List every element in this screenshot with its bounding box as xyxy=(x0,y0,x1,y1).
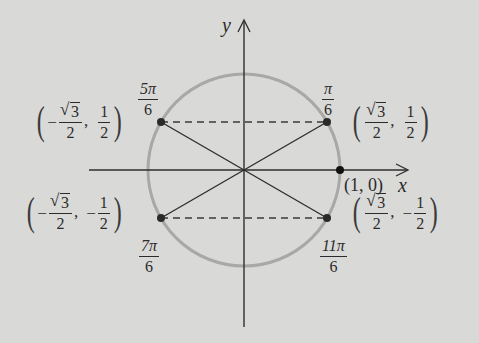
x-axis-label: x xyxy=(398,174,407,197)
angle-label-pi-6: π6 xyxy=(321,81,335,118)
coord-label-pi-6: ( 32 , 12 ) xyxy=(350,104,431,141)
num: 1 xyxy=(414,195,426,214)
close-paren: ) xyxy=(430,192,438,232)
num: 1 xyxy=(98,195,110,214)
num: 1 xyxy=(405,104,417,123)
den: 2 xyxy=(373,123,381,141)
sign: − xyxy=(47,114,57,131)
num: 1 xyxy=(98,104,110,123)
open-paren: ( xyxy=(353,101,361,141)
close-paren: ) xyxy=(113,192,121,232)
sign: − xyxy=(403,205,413,222)
coord-label-11pi-6: ( 32 , − 12 ) xyxy=(350,195,441,232)
angle-label-5pi-6: 5π6 xyxy=(137,81,159,118)
point-pi-6 xyxy=(323,118,331,126)
close-paren: ) xyxy=(114,101,122,141)
sign: − xyxy=(37,205,47,222)
angle-den: 6 xyxy=(145,257,153,275)
coord-label-7pi-6: ( − 32 , − 12 ) xyxy=(24,195,124,232)
open-paren: ( xyxy=(27,192,35,232)
point-1-0-label: (1, 0) xyxy=(344,176,383,194)
angle-den: 6 xyxy=(324,100,332,118)
point-11pi-6 xyxy=(323,214,331,222)
point-5pi-6 xyxy=(157,118,165,126)
open-paren: ( xyxy=(37,101,45,141)
y-axis-label: y xyxy=(222,14,231,37)
unit-circle-graphic xyxy=(0,0,479,343)
angle-num: 7π xyxy=(139,238,159,257)
angle-label-11pi-6: 11π6 xyxy=(319,238,348,275)
den: 2 xyxy=(407,123,415,141)
den: 2 xyxy=(66,123,74,141)
den: 2 xyxy=(56,214,64,232)
angle-num: 11π xyxy=(320,238,347,257)
open-paren: ( xyxy=(353,192,361,232)
close-paren: ) xyxy=(420,101,428,141)
den: 2 xyxy=(416,214,424,232)
angle-num: π xyxy=(322,81,334,100)
coord-label-5pi-6: ( − 32 , 12 ) xyxy=(34,104,125,141)
den: 2 xyxy=(100,214,108,232)
point-7pi-6 xyxy=(157,214,165,222)
angle-label-7pi-6: 7π6 xyxy=(138,238,160,275)
unit-circle-figure: y x (1, 0) π6 5π6 7π6 11π6 ( 32 , 12 ) (… xyxy=(0,0,479,343)
angle-num: 5π xyxy=(138,81,158,100)
angle-den: 6 xyxy=(144,100,152,118)
den: 2 xyxy=(373,214,381,232)
point-1-0 xyxy=(336,166,344,174)
sign: − xyxy=(86,205,96,222)
den: 2 xyxy=(100,123,108,141)
angle-den: 6 xyxy=(329,257,337,275)
